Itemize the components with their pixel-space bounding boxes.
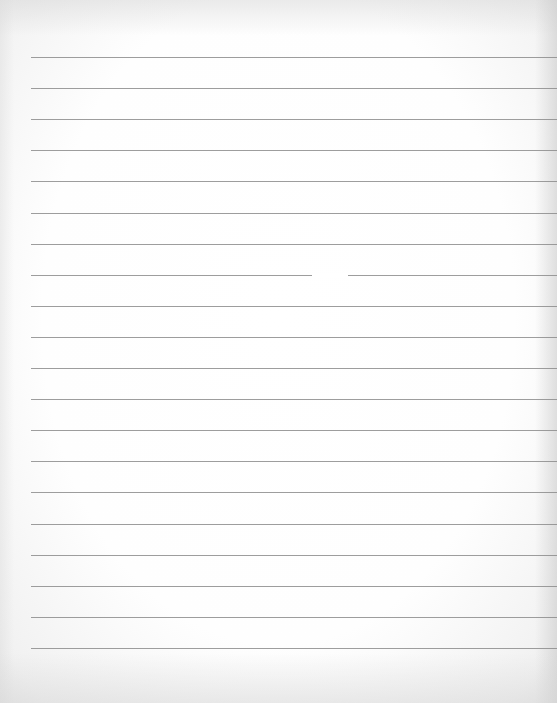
paper-shadow-bottom bbox=[0, 653, 557, 703]
ruled-line bbox=[31, 461, 557, 462]
ruled-line bbox=[31, 306, 557, 307]
ruled-line bbox=[31, 586, 557, 587]
ruled-line bbox=[31, 648, 557, 649]
ruled-line bbox=[31, 275, 557, 276]
paper-shadow-right bbox=[535, 0, 557, 703]
line-gap bbox=[312, 274, 348, 277]
ruled-line bbox=[31, 337, 557, 338]
ruled-line bbox=[31, 524, 557, 525]
ruled-line bbox=[31, 88, 557, 89]
lined-paper-sheet bbox=[0, 0, 557, 703]
ruled-line bbox=[31, 119, 557, 120]
ruled-line bbox=[31, 617, 557, 618]
ruled-line bbox=[31, 555, 557, 556]
ruled-line bbox=[31, 368, 557, 369]
ruled-line bbox=[31, 430, 557, 431]
ruled-line bbox=[31, 244, 557, 245]
ruled-line bbox=[31, 150, 557, 151]
paper-shadow-left bbox=[0, 0, 14, 703]
ruled-line bbox=[31, 492, 557, 493]
ruled-line bbox=[31, 181, 557, 182]
paper-shadow-top bbox=[0, 0, 557, 36]
ruled-line bbox=[31, 213, 557, 214]
ruled-line bbox=[31, 57, 557, 58]
ruled-line bbox=[31, 399, 557, 400]
